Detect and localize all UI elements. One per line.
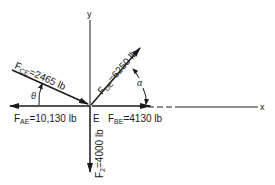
fde-value: =6250 lb	[106, 48, 140, 85]
fbe-label: FBE=4130 lb	[108, 113, 163, 125]
x-axis-label: x	[260, 102, 265, 112]
y-axis-label: y	[87, 9, 92, 19]
alpha-arc-upper	[133, 69, 139, 78]
alpha-label: α	[137, 78, 143, 88]
fbe-subscript: BE	[114, 118, 124, 125]
theta-label: θ	[31, 91, 36, 101]
point-e-label: E	[93, 113, 100, 124]
alpha-arc-lower	[143, 88, 146, 104]
theta-arc	[39, 84, 42, 105]
fae-label: FAE=10,130 lb	[14, 113, 77, 125]
fbe-value: =4130 lb	[123, 113, 162, 124]
fde-label: FDE=6250 lb	[95, 48, 140, 97]
fae-value: =10,130 lb	[29, 113, 76, 124]
fae-subscript: AE	[20, 118, 30, 125]
free-body-diagram: y x θ α E FCE=2465 lb FDE=6250 lb FAE=10…	[0, 0, 275, 185]
svg-text:F2=4000 lb: F2=4000 lb	[94, 129, 106, 178]
svg-text:FDE=6250 lb: FDE=6250 lb	[95, 48, 140, 97]
fz-label: F2=4000 lb	[94, 129, 106, 178]
fz-value: =4000 lb	[94, 129, 105, 168]
